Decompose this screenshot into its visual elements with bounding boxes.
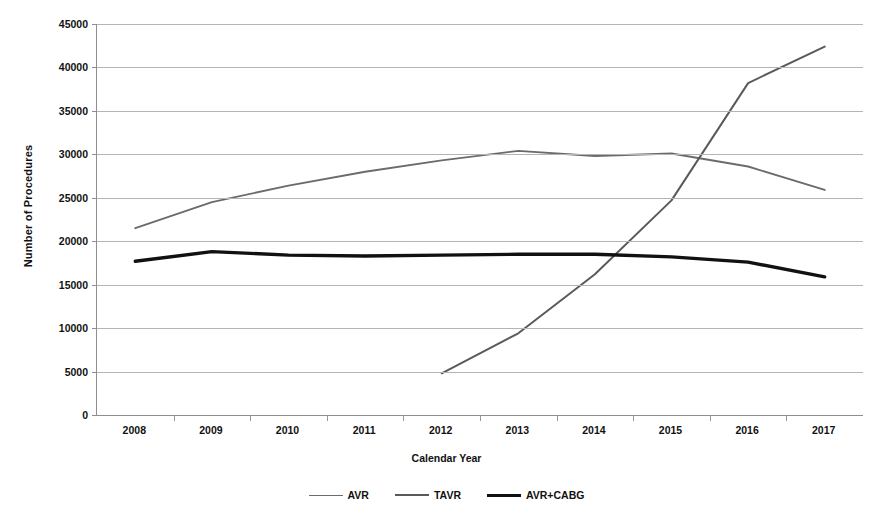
x-axis-tick (786, 415, 787, 421)
x-axis-tick-label: 2010 (276, 424, 299, 436)
x-axis-tick (327, 415, 328, 421)
y-axis-tick (92, 372, 97, 373)
legend-swatch-icon (487, 494, 521, 497)
y-axis-tick (92, 111, 97, 112)
x-axis-tick (557, 415, 558, 421)
y-axis-tick-label: 0 (82, 409, 88, 421)
x-axis-tick (710, 415, 711, 421)
legend-item[interactable]: TAVR (395, 489, 461, 501)
x-axis-tick-label: 2017 (812, 424, 835, 436)
y-axis-tick (92, 415, 97, 416)
x-axis-tick (174, 415, 175, 421)
gridline (97, 241, 863, 242)
legend-label: AVR+CABG (526, 489, 584, 501)
gridline (97, 285, 863, 286)
series-line-avr-cabg (135, 252, 824, 277)
y-axis-tick-label: 20000 (59, 235, 88, 247)
x-axis-tick (250, 415, 251, 421)
legend-swatch-icon (309, 495, 343, 496)
y-axis-tick-label: 40000 (59, 61, 88, 73)
legend-item[interactable]: AVR+CABG (487, 489, 584, 501)
y-axis-tick-labels: 0500010000150002000025000300003500040000… (24, 0, 88, 425)
gridline (97, 111, 863, 112)
gridline (97, 372, 863, 373)
y-axis-tick-label: 10000 (59, 322, 88, 334)
x-axis-tick (480, 415, 481, 421)
x-axis-tick-label: 2015 (659, 424, 682, 436)
y-axis-tick (92, 241, 97, 242)
chart-legend: AVRTAVRAVR+CABG (0, 489, 893, 501)
y-axis-tick (92, 285, 97, 286)
x-axis-tick (403, 415, 404, 421)
y-axis-tick (92, 198, 97, 199)
series-line-tavr (442, 47, 825, 374)
gridline (97, 67, 863, 68)
y-axis-tick-label: 35000 (59, 105, 88, 117)
y-axis-tick-label: 45000 (59, 18, 88, 30)
x-axis-title: Calendar Year (0, 452, 893, 464)
x-axis-tick-label: 2012 (429, 424, 452, 436)
gridline (97, 154, 863, 155)
legend-label: AVR (348, 489, 369, 501)
x-axis-tick-label: 2013 (506, 424, 529, 436)
x-axis-tick-label: 2011 (353, 424, 376, 436)
plot-area (96, 24, 863, 416)
gridline (97, 24, 863, 25)
gridline (97, 198, 863, 199)
y-axis-tick (92, 328, 97, 329)
y-axis-tick (92, 67, 97, 68)
y-axis-tick-label: 25000 (59, 192, 88, 204)
x-axis-tick-label: 2008 (123, 424, 146, 436)
x-axis-tick-label: 2016 (735, 424, 758, 436)
gridline (97, 328, 863, 329)
y-axis-tick-label: 15000 (59, 279, 88, 291)
x-axis-tick (633, 415, 634, 421)
series-line-avr (135, 151, 824, 228)
x-axis-tick-labels: 2008200920102011201220132014201520162017 (96, 424, 862, 446)
y-axis-tick-label: 5000 (65, 366, 88, 378)
x-axis-tick-label: 2014 (582, 424, 605, 436)
legend-item[interactable]: AVR (309, 489, 369, 501)
y-axis-tick (92, 154, 97, 155)
y-axis-tick-label: 30000 (59, 148, 88, 160)
y-axis-tick (92, 24, 97, 25)
legend-label: TAVR (434, 489, 461, 501)
line-chart: Number of Procedures 0500010000150002000… (0, 0, 893, 525)
data-series-lines (97, 24, 863, 415)
x-axis-tick-label: 2009 (199, 424, 222, 436)
legend-swatch-icon (395, 494, 429, 496)
